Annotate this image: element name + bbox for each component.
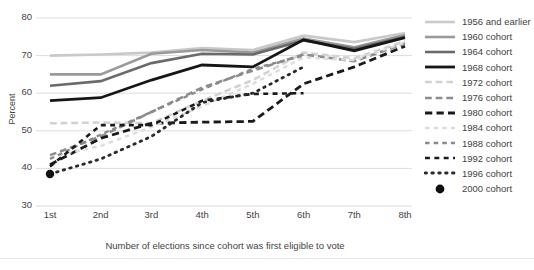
legend-item[interactable]: 1960 cohort (424, 29, 534, 44)
legend-item-label: 1968 cohort (462, 62, 512, 73)
series-layer (46, 33, 405, 178)
legend-swatch-icon (424, 16, 456, 28)
legend-item[interactable]: 1980 cohort (424, 105, 534, 120)
legend-item-label: 2000 cohort (462, 183, 512, 194)
legend-swatch-icon (424, 183, 456, 195)
legend-item-label: 1976 cohort (462, 92, 512, 103)
legend-item-label: 1996 cohort (462, 168, 512, 179)
legend-item[interactable]: 1964 cohort (424, 44, 534, 59)
x-axis-tick-label: 5th (236, 210, 270, 220)
legend-item[interactable]: 1976 cohort (424, 90, 534, 105)
legend-item-label: 1964 cohort (462, 46, 512, 57)
x-axis-title: Number of elections since cohort was fir… (30, 240, 420, 251)
series-line (50, 93, 304, 166)
chart-legend: 1956 and earlier1960 cohort1964 cohort19… (424, 14, 534, 196)
footer-divider (0, 258, 534, 259)
legend-item[interactable]: 1992 cohort (424, 151, 534, 166)
y-axis-title: Percent (7, 81, 17, 137)
legend-item[interactable]: 1984 cohort (424, 120, 534, 135)
legend-item[interactable]: 1968 cohort (424, 60, 534, 75)
legend-item-label: 1980 cohort (462, 107, 512, 118)
legend-swatch-icon (424, 122, 456, 134)
legend-item[interactable]: 1988 cohort (424, 136, 534, 151)
plot-area: 304050607080 1st2nd3rd4th5th6th7th8th Pe… (0, 0, 420, 270)
x-axis-tick-label: 8th (388, 210, 422, 220)
x-axis-tick-label: 6th (287, 210, 321, 220)
legend-swatch-icon (424, 92, 456, 104)
legend-item[interactable]: 1956 and earlier (424, 14, 534, 29)
legend-item-label: 1984 cohort (462, 122, 512, 133)
legend-swatch-icon (424, 152, 456, 164)
y-axis-tick-label: 40 (8, 162, 32, 172)
series-marker (46, 170, 54, 178)
legend-swatch-icon (424, 76, 456, 88)
legend-swatch-icon (424, 107, 456, 119)
legend-swatch-icon (424, 167, 456, 179)
x-axis-tick-label: 3rd (134, 210, 168, 220)
legend-item-label: 1972 cohort (462, 77, 512, 88)
series-line (50, 42, 405, 157)
legend-swatch-icon (424, 61, 456, 73)
x-axis-tick-label: 7th (337, 210, 371, 220)
legend-item-label: 1960 cohort (462, 31, 512, 42)
y-axis-tick-label: 70 (8, 50, 32, 60)
chart-canvas (0, 0, 420, 270)
x-axis-tick-label: 2nd (84, 210, 118, 220)
x-axis-tick-label: 4th (185, 210, 219, 220)
x-axis-tick-label: 1st (33, 210, 67, 220)
legend-item[interactable]: 1996 cohort (424, 166, 534, 181)
legend-item[interactable]: 2000 cohort (424, 181, 534, 196)
legend-item[interactable]: 1972 cohort (424, 75, 534, 90)
legend-swatch-icon (424, 137, 456, 149)
legend-item-label: 1992 cohort (462, 153, 512, 164)
legend-swatch-icon (424, 46, 456, 58)
chart-screenshot: 304050607080 1st2nd3rd4th5th6th7th8th Pe… (0, 0, 534, 270)
y-axis-tick-label: 80 (8, 12, 32, 22)
legend-item-label: 1988 cohort (462, 138, 512, 149)
legend-swatch-icon (424, 31, 456, 43)
legend-item-label: 1956 and earlier (462, 16, 531, 27)
series-line (50, 46, 405, 164)
y-axis-tick-label: 30 (8, 200, 32, 210)
